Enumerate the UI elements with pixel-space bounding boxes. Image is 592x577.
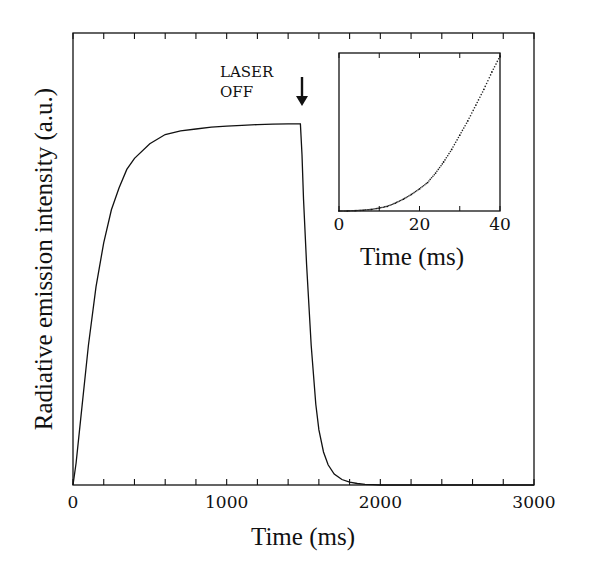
inset-data-dot [448,153,450,155]
inset-data-dot [349,210,351,212]
inset-data-dot [463,127,465,129]
inset-x-tick-label: 0 [334,214,345,234]
inset-data-dot [442,163,444,165]
inset-data-dot [374,208,376,210]
main-x-tick-label: 2000 [359,492,402,512]
inset-data-dot [439,167,441,169]
inset-data-dot [361,210,363,212]
inset-x-tick-labels: 02040 [334,214,511,234]
inset-data-dot [425,183,427,185]
inset-data-dot [490,74,492,76]
inset-data-dot [470,115,472,117]
inset-data-dot [388,205,390,207]
inset-data-dot [372,208,374,210]
inset-data-dot [432,175,434,177]
inset-data-dot [480,94,482,96]
inset-data-dot [494,66,496,68]
inset-data-dot [438,169,440,171]
inset-data-dot [415,191,417,193]
chart-canvas: 0100020003000 Time (ms) Radiative emissi… [0,0,592,577]
inset-data-dot [368,209,370,211]
inset-data-dot [498,58,500,60]
inset-data-dot [471,112,473,114]
inset-data-dot [466,123,468,125]
inset-data-dot [458,137,460,139]
inset-data-dot [428,180,430,182]
inset-data-dot [464,125,466,127]
inset-data-dot [412,193,414,195]
main-x-tick-label: 0 [68,492,79,512]
inset-data-dot [493,69,495,71]
inset-data-dot [353,210,355,212]
inset-data-dot [489,77,491,79]
inset-data-dot [369,209,371,211]
inset-data-point [483,88,485,90]
inset-data-dot [391,204,393,206]
inset-data-dot [413,192,415,194]
inset-x-tick-label: 20 [409,214,431,234]
inset-data-dot [431,177,433,179]
inset-data-dot [345,210,347,212]
inset-data-dot [358,210,360,212]
inset-data-point [427,182,429,184]
inset-data-dot [454,144,456,146]
inset-data-dot [478,99,480,101]
inset-data-dot [455,142,457,144]
inset-data-dot [495,63,497,65]
inset-data-dot [447,155,449,157]
main-x-tick-label: 1000 [205,492,248,512]
inset-data-dot [421,186,423,188]
inset-data-point [443,161,445,163]
annotation-off: OFF [220,83,253,101]
inset-data-dot [407,196,409,198]
inset-data-dot [381,207,383,209]
inset-data-point [467,120,469,122]
inset-data-dot [472,110,474,112]
inset-data-dot [484,86,486,88]
inset-plot: 02040 Time (ms) [334,53,511,271]
inset-data-dot [397,201,399,203]
inset-data-dot [423,185,425,187]
inset-data-dot [342,210,344,212]
inset-data-dot [476,102,478,104]
inset-data-dot [420,187,422,189]
inset-data-dot [416,190,418,192]
inset-data-dot [482,91,484,93]
inset-data-dot [434,174,436,176]
inset-data-dot [444,159,446,161]
inset-plot-frame [339,53,500,211]
inset-data-dot [400,200,402,202]
inset-data-dot [417,189,419,191]
inset-data-dot [474,107,476,109]
inset-data-dot [436,170,438,172]
inset-data-dot [462,130,464,132]
annotation-laser: LASER [220,63,274,81]
inset-data-dot [456,139,458,141]
inset-data-dot [340,210,342,212]
main-x-tick-labels: 0100020003000 [68,492,556,512]
inset-data-point [451,149,453,151]
inset-data-dot [486,83,488,85]
inset-data-dot [440,165,442,167]
inset-data-dot [424,184,426,186]
inset-data-dot [446,157,448,159]
inset-data-dot [460,132,462,134]
main-x-axis-title: Time (ms) [251,523,355,551]
inset-data-dot [487,80,489,82]
inset-data-dot [468,118,470,120]
inset-data-dot [393,203,395,205]
inset-data-dot [429,179,431,181]
inset-data-dot [377,208,379,210]
inset-data-point [491,71,493,73]
inset-x-axis-title: Time (ms) [360,243,464,271]
inset-data-dot [352,210,354,212]
inset-data-dot [479,96,481,98]
inset-x-tick-label: 40 [489,214,511,234]
main-y-axis-title: Radiative emission intensity (a.u.) [30,88,58,430]
inset-data-dot [385,206,387,208]
inset-data-dot [356,210,358,212]
inset-data-dot [450,151,452,153]
inset-data-dot [452,146,454,148]
inset-data-dot [497,61,499,63]
inset-data-dot [404,198,406,200]
